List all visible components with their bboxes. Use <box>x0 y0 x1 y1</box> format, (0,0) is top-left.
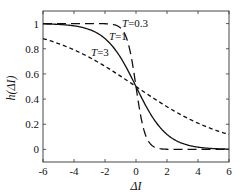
series-lines <box>43 24 229 150</box>
y-tick-label: 0.4 <box>25 93 39 105</box>
x-tick-label: -6 <box>38 165 48 177</box>
x-tick-label: 4 <box>195 165 201 177</box>
x-axis-title: ΔI <box>129 179 142 193</box>
y-tick-label: 1 <box>34 18 40 30</box>
x-tick-label: 6 <box>226 165 232 177</box>
x-tick-label: 0 <box>133 165 139 177</box>
y-tick-label: 0.2 <box>25 118 39 130</box>
line-chart: -6-4-20246 00.20.40.60.81 T=0.3T=1T=3 ΔI… <box>0 0 245 196</box>
series-label: T=0.3 <box>122 17 149 29</box>
series-label: T=3 <box>91 46 109 58</box>
y-tick-label: 0.8 <box>25 43 39 55</box>
series-line-T-3 <box>43 39 229 135</box>
series-label: T=1 <box>109 30 127 42</box>
y-tick-label: 0 <box>34 143 40 155</box>
y-axis-title: h(ΔI) <box>4 75 18 100</box>
y-tick-label: 0.6 <box>25 68 39 80</box>
x-tick-label: -2 <box>100 165 109 177</box>
x-tick-label: -4 <box>69 165 79 177</box>
x-axis-ticks: -6-4-20246 <box>38 11 232 177</box>
x-tick-label: 2 <box>164 165 170 177</box>
